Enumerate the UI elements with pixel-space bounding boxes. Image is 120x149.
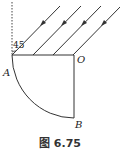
- arrow-heads: [40, 20, 107, 26]
- quarter-circle-arc: [12, 55, 74, 118]
- incident-rays: [12, 6, 120, 55]
- label-B: B: [75, 120, 82, 130]
- optics-diagram: [0, 0, 120, 149]
- label-A: A: [3, 68, 10, 78]
- figure-caption: 图 6.75: [0, 134, 120, 149]
- label-O: O: [77, 55, 85, 65]
- angle-label: 45: [13, 40, 24, 50]
